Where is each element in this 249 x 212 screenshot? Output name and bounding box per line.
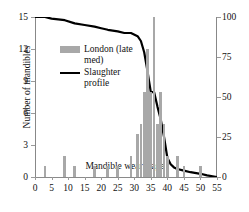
x-tick-mark (184, 177, 185, 180)
bar (199, 166, 202, 177)
left-tick-label: 0 (4, 172, 28, 182)
legend-bar-swatch-icon (60, 46, 80, 53)
x-tick-mark (68, 177, 69, 180)
bar (93, 166, 96, 177)
bar (163, 124, 166, 177)
legend-item-london-late-med: London (late med) (60, 44, 146, 66)
right-tick-mark (217, 17, 221, 18)
x-tick-mark (151, 177, 152, 180)
bar (176, 156, 179, 177)
bar (130, 156, 133, 177)
right-tick-mark (217, 137, 221, 138)
bar (116, 166, 119, 177)
bar (140, 124, 143, 177)
x-tick-mark (35, 177, 36, 180)
bar (149, 92, 152, 177)
bar (159, 92, 162, 177)
bar (166, 156, 169, 177)
bar-series-london-late-med (35, 17, 217, 177)
plot-area (35, 17, 217, 177)
x-tick-mark (85, 177, 86, 180)
bar (63, 156, 66, 177)
left-tick-label: 15 (4, 12, 28, 22)
bar (136, 134, 139, 177)
x-tick-mark (118, 177, 119, 180)
right-tick-mark (217, 177, 221, 178)
right-tick-label: 25 (222, 132, 246, 142)
legend: London (late med) Slaughter profile (60, 44, 146, 90)
bottom-axis-line (35, 177, 217, 178)
right-tick-label: 75 (222, 52, 246, 62)
x-tick-mark (134, 177, 135, 180)
x-tick-mark (200, 177, 201, 180)
x-tick-mark (52, 177, 53, 180)
bar (153, 17, 156, 177)
right-tick-label: 0 (222, 172, 246, 182)
bar (44, 166, 47, 177)
right-tick-mark (217, 97, 221, 98)
chart-container: 0510152025303540455055 03691215 02550751… (0, 0, 249, 212)
legend-line-swatch-icon (60, 72, 80, 74)
x-tick-mark (167, 177, 168, 180)
legend-item-slaughter-profile: Slaughter profile (60, 67, 146, 89)
legend-label-slaughter-profile: Slaughter profile (84, 67, 146, 89)
bar (73, 166, 76, 177)
legend-label-london-late-med: London (late med) (84, 44, 146, 66)
bar (106, 166, 109, 177)
right-tick-label: 100 (222, 12, 246, 22)
bar (156, 124, 159, 177)
x-tick-mark (101, 177, 102, 180)
x-tick-label: 55 (207, 183, 227, 193)
left-axis-title: Number of mandibles (22, 32, 32, 142)
bar (146, 49, 149, 177)
left-tick-mark (31, 177, 35, 178)
bar (183, 166, 186, 177)
right-tick-mark (217, 57, 221, 58)
right-tick-label: 50 (222, 92, 246, 102)
bar (143, 92, 146, 177)
